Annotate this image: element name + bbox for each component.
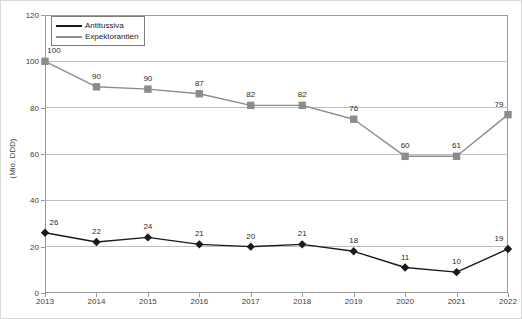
data-point-label: 19 — [495, 234, 504, 243]
line-chart: 020406080100120 (Mio. DDD) 2013201420152… — [0, 0, 522, 319]
series-lines — [45, 61, 508, 272]
y-axis-tick-mark — [41, 154, 45, 155]
x-axis-tick-mark — [199, 293, 200, 297]
data-point-label: 60 — [401, 141, 410, 150]
x-axis-tick-label: 2016 — [190, 297, 208, 306]
gridlines — [45, 61, 508, 246]
legend-swatch-expektorantien — [56, 31, 82, 42]
data-point-label: 24 — [143, 222, 152, 231]
x-axis-tick-label: 2022 — [499, 297, 517, 306]
x-axis-tick-mark — [96, 293, 97, 297]
data-point-label: 21 — [195, 229, 204, 238]
x-axis-tick-mark — [302, 293, 303, 297]
data-point-label: 100 — [47, 46, 60, 55]
x-axis-tick-label: 2021 — [448, 297, 466, 306]
legend-label-expektorantien: Expektorantien — [85, 32, 138, 41]
y-axis-tick-mark — [41, 108, 45, 109]
data-point-label: 20 — [246, 232, 255, 241]
x-axis-tick-label: 2019 — [345, 297, 363, 306]
y-axis-tick-label: 100 — [13, 57, 39, 66]
x-axis-tick-labels: 2013201420152016201720182019202020212022 — [1, 297, 522, 317]
data-point-label: 87 — [195, 79, 204, 88]
legend-item-expektorantien[interactable]: Expektorantien — [56, 31, 138, 42]
x-axis-tick-label: 2018 — [293, 297, 311, 306]
x-axis-tick-mark — [354, 293, 355, 297]
data-point-label: 82 — [298, 90, 307, 99]
data-point-label: 26 — [50, 218, 59, 227]
y-axis-tick-label: 120 — [13, 11, 39, 20]
x-axis-tick-label: 2015 — [139, 297, 157, 306]
data-point-label: 90 — [92, 72, 101, 81]
legend-item-antitussiva[interactable]: Antitussiva — [56, 20, 138, 31]
x-axis-tick-label: 2017 — [242, 297, 260, 306]
series-markers — [41, 58, 512, 277]
x-axis-tick-mark — [45, 293, 46, 297]
legend-swatch-antitussiva — [56, 20, 82, 31]
data-point-label: 10 — [452, 257, 461, 266]
y-axis-title: (Mio. DDD) — [8, 104, 17, 214]
square-marker-icon — [69, 37, 70, 38]
data-point-label: 61 — [452, 141, 461, 150]
x-axis-tick-mark — [508, 293, 509, 297]
y-axis-tick-label: 60 — [13, 150, 39, 159]
x-axis-tick-mark — [251, 293, 252, 297]
x-axis-tick-mark — [457, 293, 458, 297]
x-axis-tick-mark — [148, 293, 149, 297]
y-axis-tick-mark — [41, 61, 45, 62]
chart-legend: Antitussiva Expektorantien — [51, 16, 145, 46]
data-point-label: 90 — [143, 74, 152, 83]
data-point-label: 79 — [495, 100, 504, 109]
data-point-label: 21 — [298, 229, 307, 238]
y-axis-tick-mark — [41, 200, 45, 201]
data-point-label: 11 — [401, 253, 409, 262]
y-axis-tick-label: 20 — [13, 242, 39, 251]
data-point-label: 18 — [349, 236, 358, 245]
x-axis-tick-label: 2020 — [396, 297, 414, 306]
y-axis-tick-label: 80 — [13, 103, 39, 112]
x-axis-tick-label: 2014 — [88, 297, 106, 306]
y-axis-tick-mark — [41, 247, 45, 248]
chart-canvas — [1, 1, 522, 319]
y-axis-tick-mark — [41, 15, 45, 16]
diamond-marker-icon — [69, 26, 70, 27]
data-point-label: 76 — [349, 104, 358, 113]
data-point-label: 22 — [92, 227, 101, 236]
data-point-label: 82 — [246, 90, 255, 99]
x-axis-tick-label: 2013 — [36, 297, 54, 306]
y-axis-tick-label: 40 — [13, 196, 39, 205]
x-axis-tick-mark — [405, 293, 406, 297]
legend-label-antitussiva: Antitussiva — [85, 21, 124, 30]
